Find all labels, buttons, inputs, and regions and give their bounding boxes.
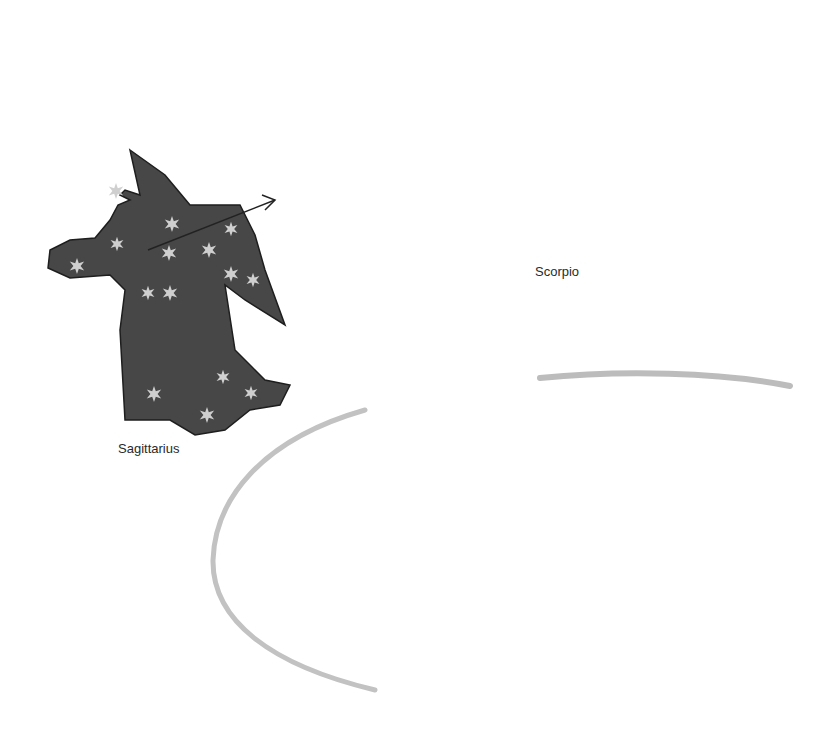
orbit-path xyxy=(213,373,790,690)
sagittarius-constellation xyxy=(48,150,290,435)
astronomy-illustration xyxy=(0,0,813,736)
scorpio-label: Scorpio xyxy=(535,264,579,279)
sagittarius-label: Sagittarius xyxy=(118,441,179,456)
